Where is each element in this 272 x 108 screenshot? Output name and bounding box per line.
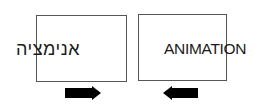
hebrew-animation-label: אנימציה [16,40,80,58]
english-animation-label: ANIMATION [164,40,246,58]
arrow-left-shape [163,86,198,100]
arrow-right-icon [65,86,101,100]
arrow-right-shape [65,86,101,100]
arrow-left-icon [163,86,198,100]
